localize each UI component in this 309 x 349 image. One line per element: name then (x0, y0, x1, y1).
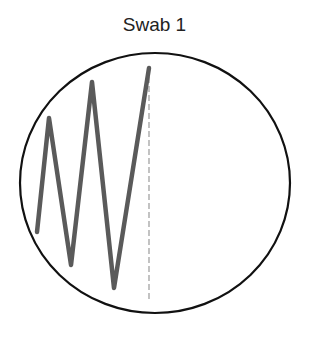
swab-plate-diagram (0, 0, 309, 349)
zigzag-streak (37, 68, 149, 288)
